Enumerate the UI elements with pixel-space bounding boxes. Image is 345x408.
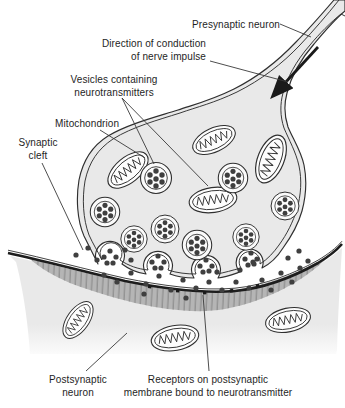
vesicle-shape — [151, 215, 179, 243]
vesicle-shape — [141, 163, 172, 194]
vesicle-shape — [182, 230, 211, 259]
label-receptors: Receptors on postsynaptic membrane bound… — [102, 373, 314, 399]
vesicle-shape — [233, 224, 259, 250]
vesicle-shape — [90, 197, 119, 226]
vesicle-shape — [271, 192, 299, 220]
vesicle-shape — [218, 163, 247, 192]
label-direction-of-conduction: Direction of conduction of nerve impulse — [86, 37, 206, 63]
leader-synaptic-cleft — [42, 163, 83, 250]
label-synaptic-cleft: Synaptic cleft — [8, 136, 68, 162]
label-vesicles: Vesicles containing neurotransmitters — [54, 73, 174, 99]
synapse-diagram: Presynaptic neuron Direction of conducti… — [0, 0, 345, 408]
label-presynaptic-neuron: Presynaptic neuron — [155, 18, 280, 31]
label-mitochondrion: Mitochondrion — [55, 117, 145, 130]
